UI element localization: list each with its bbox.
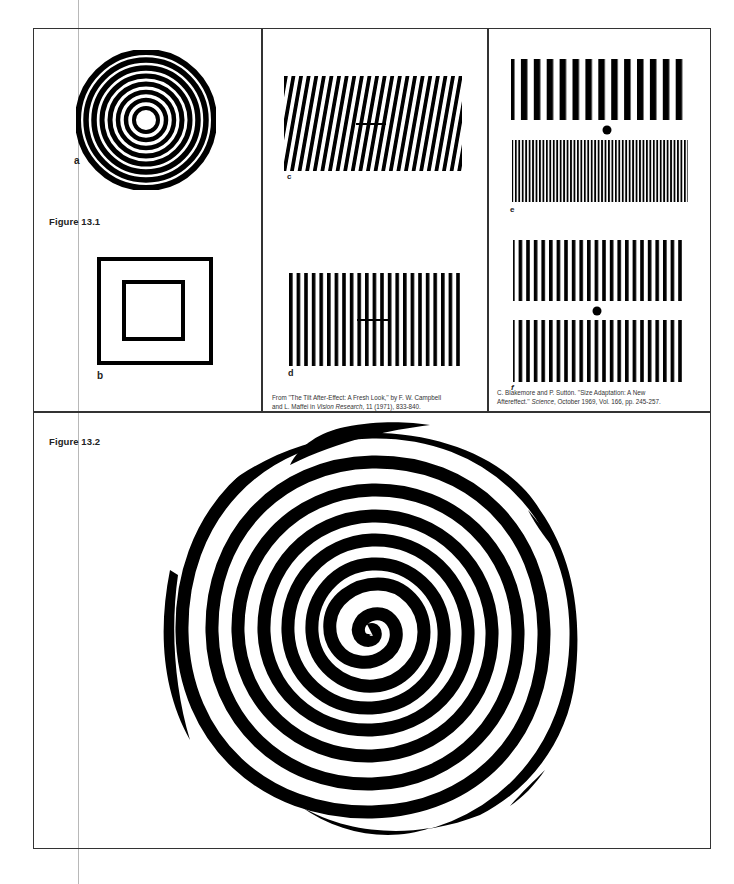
caption-line-1: C. Blakemore and P. Suttón. ''Size Adapt… <box>497 388 711 397</box>
archimedes-spiral-figure <box>160 420 580 840</box>
journal-title: Vision Research <box>317 403 363 410</box>
caption-text: Aftereffect.'' <box>497 398 532 405</box>
nested-squares-figure <box>96 256 214 366</box>
column-divider-1 <box>261 28 263 411</box>
vertical-grating-figure <box>289 273 463 366</box>
size-adaptation-grating-e <box>508 58 688 204</box>
panel-label-d: d <box>288 368 294 378</box>
caption-line-1: From ''The Tilt After-Effect: A Fresh Lo… <box>272 393 486 402</box>
caption-text: , October 1969, Vol. 166, pp. 245-257. <box>554 398 661 405</box>
column-divider-2 <box>487 28 489 411</box>
panel-label-b: b <box>97 370 103 381</box>
panel-label-e: e <box>510 205 514 214</box>
concentric-rings-figure <box>76 50 216 190</box>
caption-campbell-maffei: From ''The Tilt After-Effect: A Fresh Lo… <box>272 393 486 411</box>
caption-line-2: Aftereffect.'' Science, October 1969, Vo… <box>497 397 711 406</box>
figure-label-13-1: Figure 13.1 <box>49 216 100 227</box>
caption-line-2: and L. Maffei in Vision Research, 11 (19… <box>272 402 486 411</box>
journal-title: Science <box>532 398 554 405</box>
tilted-grating-figure <box>284 76 464 172</box>
size-adaptation-grating-f <box>511 238 687 384</box>
panel-label-a: a <box>74 155 80 166</box>
caption-text: and L. Maffei in <box>272 403 317 410</box>
caption-blakemore-sutton: C. Blakemore and P. Suttón. ''Size Adapt… <box>497 388 711 406</box>
figure-label-13-2: Figure 13.2 <box>49 436 100 447</box>
row-divider <box>33 411 711 413</box>
panel-label-c: c <box>287 172 291 181</box>
caption-text: , 11 (1971), 833-840. <box>362 403 420 410</box>
